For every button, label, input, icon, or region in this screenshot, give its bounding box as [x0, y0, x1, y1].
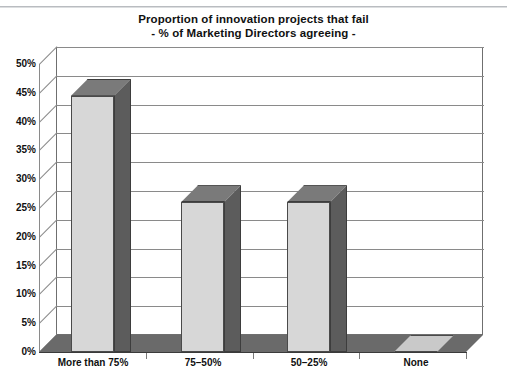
- y-axis-tick-connector: [39, 161, 57, 179]
- bar-side-face: [330, 185, 347, 352]
- y-axis-tick-connector: [39, 104, 57, 122]
- y-axis-tick-label: 45%: [2, 88, 36, 98]
- y-axis-tick-labels: 0%5%10%15%20%25%30%35%40%45%50%: [0, 0, 36, 378]
- x-axis-tick-label: 50–25%: [256, 357, 362, 368]
- gridline: [56, 76, 484, 77]
- bar-front-face: [71, 96, 114, 352]
- y-axis-tick-label: 50%: [2, 59, 36, 69]
- x-axis-tick-mark: [359, 353, 360, 359]
- bar-zero-plate: [394, 335, 454, 352]
- y-axis-tick-label: 15%: [2, 261, 36, 271]
- bar-front-face: [287, 202, 330, 352]
- y-axis-tick-label: 20%: [2, 232, 36, 242]
- y-axis-tick-label: 30%: [2, 174, 36, 184]
- y-axis-tick-label: 40%: [2, 117, 36, 127]
- y-axis-tick-connector: [39, 248, 57, 266]
- bar-4: [394, 335, 454, 352]
- y-axis-tick-connector: [39, 132, 57, 150]
- x-axis-tick-label: None: [363, 357, 469, 368]
- bar-side-face: [224, 185, 241, 352]
- y-axis-tick-connector: [39, 190, 57, 208]
- chart-screenshot: Proportion of innovation projects that f…: [0, 0, 507, 378]
- x-axis-tick-mark: [466, 353, 467, 359]
- y-axis-tick-connector: [39, 75, 57, 93]
- y-axis-tick-connector: [39, 305, 57, 323]
- y-axis-tick-connector: [39, 46, 57, 64]
- bar-front-face: [181, 202, 224, 352]
- gridline: [56, 47, 484, 48]
- x-axis-tick-label: 75–50%: [150, 357, 256, 368]
- x-axis-tick-label: More than 75%: [40, 357, 146, 368]
- y-axis-tick-label: 5%: [2, 318, 36, 328]
- x-axis-tick-mark: [146, 353, 147, 359]
- bar-1: [71, 79, 131, 352]
- bar-side-face: [114, 79, 131, 352]
- y-axis-tick-connector: [39, 219, 57, 237]
- y-axis-tick-label: 35%: [2, 145, 36, 155]
- x-axis-tick-mark: [253, 353, 254, 359]
- y-axis-tick-connector: [39, 276, 57, 294]
- plot-area: 0%5%10%15%20%25%30%35%40%45%50% More tha…: [0, 0, 507, 378]
- y-axis-tick-label: 0%: [2, 347, 36, 357]
- bar-3: [287, 185, 347, 352]
- bar-2: [181, 185, 241, 352]
- y-axis-tick-label: 25%: [2, 203, 36, 213]
- y-axis-tick-label: 10%: [2, 289, 36, 299]
